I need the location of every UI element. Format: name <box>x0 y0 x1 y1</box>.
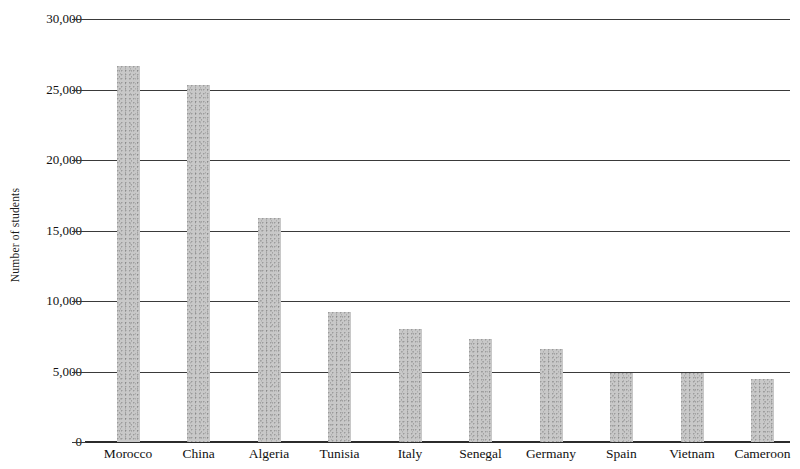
y-axis-tick-mark <box>72 301 86 302</box>
bar <box>187 85 210 442</box>
bar <box>399 329 422 442</box>
y-axis-tick-labels: 05,00010,00015,00020,00025,00030,000 <box>20 0 82 469</box>
bar <box>540 349 563 442</box>
y-axis-tick-mark <box>72 372 86 373</box>
y-axis-tick-mark <box>72 442 86 443</box>
plot-area <box>85 0 790 469</box>
bar <box>751 379 774 442</box>
bar <box>117 66 140 442</box>
y-axis-tick-mark <box>72 231 86 232</box>
x-axis-category-label: Cameroon <box>713 446 800 462</box>
bar <box>610 373 633 442</box>
bar <box>258 218 281 442</box>
bar <box>469 339 492 442</box>
bar <box>681 373 704 442</box>
y-axis-tick-mark <box>72 160 86 161</box>
y-axis-tick-mark <box>72 19 86 20</box>
gridline <box>85 19 790 20</box>
bar-chart: Number of students 05,00010,00015,00020,… <box>0 0 800 469</box>
bar <box>328 312 351 442</box>
y-axis-tick-mark <box>72 90 86 91</box>
